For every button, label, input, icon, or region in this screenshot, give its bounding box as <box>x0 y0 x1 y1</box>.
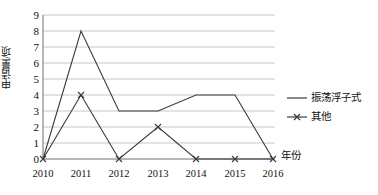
x-tick-2015: 2015 <box>215 168 255 179</box>
legend-label-other: 其他 <box>311 111 331 123</box>
gridlines <box>43 15 275 143</box>
x-tick-2012: 2012 <box>99 168 139 179</box>
legend-line-x-icon <box>286 111 308 123</box>
legend-item-oscillating-buoy: 振荡浮子式 <box>286 88 378 107</box>
axis-lines <box>43 15 275 159</box>
legend-line-icon <box>286 92 308 104</box>
x-tick-2011: 2011 <box>61 168 101 179</box>
line-chart: 申请量/项 9 8 7 6 5 4 3 2 1 0 <box>0 0 378 195</box>
x-tick-2014: 2014 <box>176 168 216 179</box>
x-tick-2016: 2016 <box>253 168 293 179</box>
legend: 振荡浮子式 其他 <box>286 88 378 126</box>
legend-item-other: 其他 <box>286 107 378 126</box>
legend-label-oscillating-buoy: 振荡浮子式 <box>311 92 361 104</box>
x-tick-2013: 2013 <box>138 168 178 179</box>
x-axis-title: 年份 <box>281 150 301 161</box>
x-tick-2010: 2010 <box>23 168 63 179</box>
